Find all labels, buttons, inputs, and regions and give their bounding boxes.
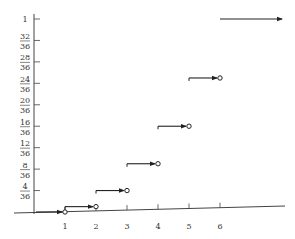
y-tick-denominator: 36 [20, 85, 30, 94]
step-segment [65, 204, 98, 209]
y-tick-denominator: 36 [20, 149, 30, 158]
y-tick-label: 2436 [20, 75, 30, 94]
step-segment [96, 188, 129, 193]
y-tick-numerator: 16 [20, 118, 30, 127]
y-tick-numerator: 24 [20, 75, 30, 84]
open-endpoint-circle [218, 76, 222, 80]
y-tick-label: 836 [20, 161, 30, 180]
y-tick-label: 1236 [20, 139, 30, 158]
y-tick-label: 2836 [20, 53, 30, 72]
y-tick-denominator: 36 [20, 171, 30, 180]
step-segment [189, 76, 222, 81]
y-tick-value: 1 [22, 15, 27, 24]
step-segments [36, 19, 282, 214]
y-tick-label: 3236 [20, 32, 30, 51]
y-tick-denominator: 36 [20, 63, 30, 72]
y-tick-denominator: 36 [20, 128, 30, 137]
step-segment [127, 162, 160, 167]
step-function-chart: 4368361236163620362436283632361 123456 [0, 0, 295, 239]
x-tick-label: 4 [155, 222, 160, 231]
step-segment [36, 210, 67, 214]
y-tick-label: 2036 [20, 96, 30, 115]
open-endpoint-circle [125, 188, 129, 192]
open-endpoint-circle [63, 210, 67, 214]
y-tick-label: 1 [22, 15, 27, 24]
y-tick-numerator: 32 [20, 32, 30, 41]
y-tick-numerator: 28 [20, 53, 30, 62]
x-tick-label: 3 [124, 222, 129, 231]
x-tick-label: 5 [186, 222, 191, 231]
y-tick-denominator: 36 [20, 192, 30, 201]
y-axis-ticks: 4368361236163620362436283632361 [20, 15, 40, 201]
x-tick-label: 1 [62, 222, 67, 231]
y-tick-label: 436 [20, 182, 30, 201]
open-endpoint-circle [94, 204, 98, 208]
y-tick-numerator: 8 [22, 161, 27, 170]
y-tick-numerator: 20 [20, 96, 30, 105]
axes [14, 14, 285, 214]
open-endpoint-circle [156, 162, 160, 166]
step-segment [158, 124, 191, 129]
y-tick-denominator: 36 [20, 42, 30, 51]
y-tick-numerator: 4 [22, 182, 27, 191]
y-tick-numerator: 12 [20, 139, 30, 148]
y-tick-label: 1636 [20, 118, 30, 137]
x-tick-label: 6 [217, 222, 222, 231]
x-tick-label: 2 [93, 222, 98, 231]
open-endpoint-circle [187, 124, 191, 128]
y-tick-denominator: 36 [20, 106, 30, 115]
